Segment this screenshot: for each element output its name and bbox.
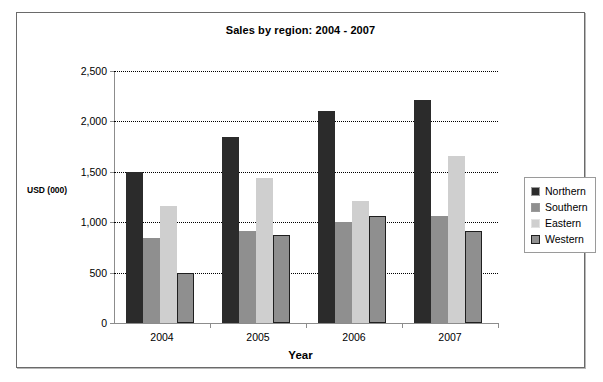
bar-eastern-2007 [448, 156, 465, 323]
x-axis-tick-mark [306, 323, 307, 328]
gridline [114, 172, 498, 173]
y-axis-title: USD (000) [27, 185, 67, 195]
legend-label: Northern [545, 185, 586, 197]
legend-swatch-eastern-icon [531, 219, 540, 228]
bar-southern-2006 [335, 222, 352, 323]
y-axis-tick-label: 1,500 [81, 166, 107, 178]
legend-item-western[interactable]: Western [531, 231, 590, 247]
bar-northern-2007 [414, 100, 431, 323]
y-axis-tick-mark [110, 222, 114, 223]
legend-item-southern[interactable]: Southern [531, 199, 590, 215]
bar-southern-2004 [143, 238, 160, 323]
legend-label: Eastern [545, 217, 581, 229]
bar-western-2005 [273, 235, 290, 323]
legend-swatch-northern-icon [531, 187, 540, 196]
y-axis-tick-mark [110, 273, 114, 274]
chart-figure-frame: Sales by region: 2004 - 2007 USD (000) 0… [16, 12, 585, 368]
legend-label: Western [545, 233, 584, 245]
x-axis-tick-mark [210, 323, 211, 328]
y-axis-tick-mark [110, 121, 114, 122]
y-axis-tick-label: 2,000 [81, 115, 107, 127]
x-axis-tick-mark [402, 323, 403, 328]
legend-swatch-southern-icon [531, 203, 540, 212]
chart-legend: NorthernSouthernEasternWestern [524, 177, 596, 253]
bar-western-2004 [177, 273, 194, 323]
legend-swatch-western-icon [531, 235, 540, 244]
y-axis-line [114, 71, 115, 323]
x-axis-tick-label: 2007 [438, 331, 461, 343]
legend-item-eastern[interactable]: Eastern [531, 215, 590, 231]
legend-item-northern[interactable]: Northern [531, 183, 590, 199]
bar-eastern-2006 [352, 201, 369, 323]
y-axis-tick-label: 0 [101, 317, 107, 329]
y-axis-tick-label: 2,500 [81, 65, 107, 77]
y-axis-tick-label: 1,000 [81, 216, 107, 228]
y-axis-tick-mark [110, 323, 114, 324]
x-axis-tick-mark [498, 323, 499, 328]
bar-western-2006 [369, 216, 386, 323]
y-axis-tick-label: 500 [89, 267, 107, 279]
bar-northern-2005 [222, 137, 239, 323]
x-axis-tick-label: 2006 [342, 331, 365, 343]
bar-western-2007 [465, 231, 482, 323]
x-axis-title: Year [17, 349, 584, 361]
legend-label: Southern [545, 201, 588, 213]
bar-southern-2007 [431, 216, 448, 323]
y-axis-tick-mark [110, 71, 114, 72]
bar-eastern-2005 [256, 178, 273, 323]
y-axis-tick-mark [110, 172, 114, 173]
gridline [114, 71, 498, 72]
bar-eastern-2004 [160, 206, 177, 323]
gridline [114, 121, 498, 122]
chart-title: Sales by region: 2004 - 2007 [17, 24, 584, 36]
bar-southern-2005 [239, 231, 256, 323]
x-axis-tick-label: 2005 [246, 331, 269, 343]
bar-northern-2006 [318, 111, 335, 323]
plot-area: 05001,0001,5002,0002,500 200420052006200… [114, 71, 498, 323]
x-axis-tick-label: 2004 [150, 331, 173, 343]
bar-northern-2004 [126, 172, 143, 323]
